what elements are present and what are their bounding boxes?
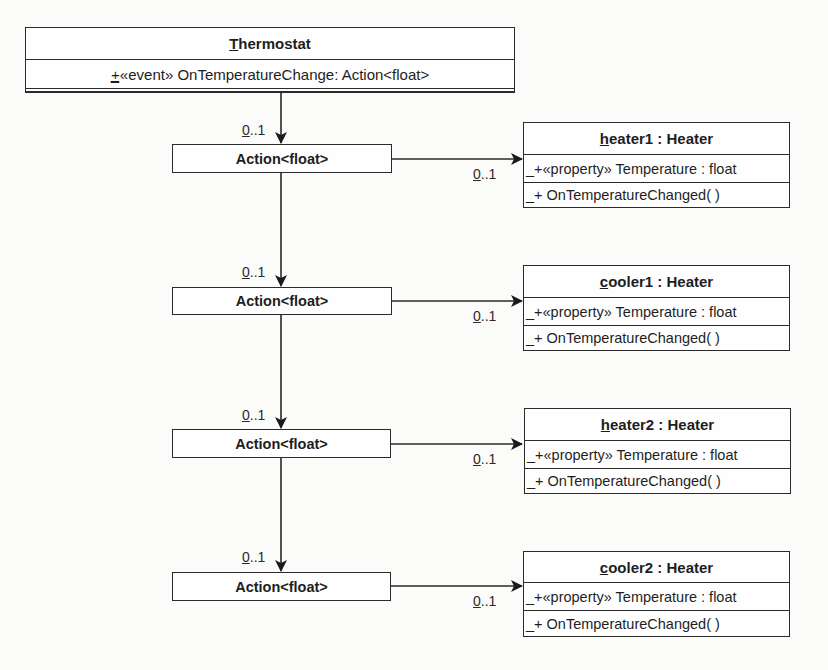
multiplicity-in-2: 0..1 [242, 264, 265, 280]
object-cooler2[interactable]: cooler2 : Heater _+«property» Temperatur… [523, 551, 790, 637]
thermostat-double-line [26, 88, 514, 92]
multiplicity-in-1: 0..1 [242, 122, 265, 138]
action-box-1[interactable]: Action<float> [172, 144, 392, 173]
action-box-3[interactable]: Action<float> [172, 429, 391, 458]
multiplicity-out-3: 0..1 [473, 451, 496, 467]
thermostat-name: Thermostat [229, 35, 311, 52]
thermostat-header: Thermostat [26, 28, 514, 59]
multiplicity-in-4: 0..1 [242, 549, 265, 565]
object-header: cooler2 : Heater [524, 552, 789, 582]
object-attribute: _+«property» Temperature : float [524, 582, 789, 610]
object-header: cooler1 : Heater [524, 266, 789, 297]
multiplicity-out-2: 0..1 [473, 308, 496, 324]
object-attribute: _+«property» Temperature : float [524, 154, 789, 182]
object-operation: _+ OnTemperatureChanged( ) [524, 610, 789, 636]
object-operation: _+ OnTemperatureChanged( ) [524, 325, 789, 350]
thermostat-class[interactable]: Thermostat _ +«event» OnTemperatureChang… [25, 27, 515, 93]
action-label: Action<float> [235, 579, 328, 595]
object-heater1[interactable]: heater1 : Heater _+«property» Temperatur… [523, 122, 790, 208]
thermostat-member: _ +«event» OnTemperatureChange: Action<f… [26, 59, 514, 89]
action-box-4[interactable]: Action<float> [172, 572, 391, 601]
event-member: +«event» OnTemperatureChange: Action<flo… [111, 66, 429, 83]
object-header: heater1 : Heater [524, 123, 789, 154]
object-attribute: _+«property» Temperature : float [525, 440, 790, 468]
multiplicity-out-4: 0..1 [473, 593, 496, 609]
object-operation: _+ OnTemperatureChanged( ) [525, 468, 790, 493]
object-cooler1[interactable]: cooler1 : Heater _+«property» Temperatur… [523, 265, 790, 351]
action-label: Action<float> [236, 293, 329, 309]
action-label: Action<float> [236, 151, 329, 167]
object-header: heater2 : Heater [525, 409, 790, 440]
object-attribute: _+«property» Temperature : float [524, 297, 789, 325]
object-operation: _+ OnTemperatureChanged( ) [524, 182, 789, 207]
action-label: Action<float> [235, 436, 328, 452]
action-box-2[interactable]: Action<float> [172, 287, 392, 315]
multiplicity-out-1: 0..1 [473, 166, 496, 182]
object-heater2[interactable]: heater2 : Heater _+«property» Temperatur… [524, 408, 791, 494]
multiplicity-in-3: 0..1 [242, 407, 265, 423]
